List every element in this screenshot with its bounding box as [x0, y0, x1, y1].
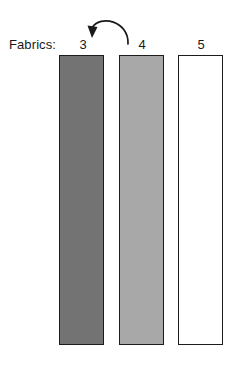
bar-fabric-3[interactable] — [59, 55, 104, 345]
bar-fabric-4[interactable] — [119, 55, 164, 345]
column-label-fabric-5: 5 — [189, 37, 213, 52]
fabrics-diagram: Fabrics: 3 4 5 — [0, 0, 239, 365]
column-label-fabric-4: 4 — [130, 37, 154, 52]
bar-fabric-5[interactable] — [178, 55, 223, 345]
fabrics-axis-label: Fabrics: — [9, 37, 56, 52]
transition-arrow-curve-icon — [92, 21, 128, 44]
column-label-fabric-3: 3 — [71, 37, 95, 52]
